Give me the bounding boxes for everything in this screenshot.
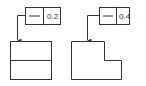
right-example: 0.4 <box>72 8 131 80</box>
feature-control-frame-right: 0.4 <box>100 8 131 25</box>
leader-line-right <box>88 16 100 41</box>
leader-line-left <box>18 16 26 41</box>
part-stepped-profile-right <box>72 42 122 80</box>
tolerance-value-right: 0.4 <box>119 12 131 21</box>
tolerance-value-left: 0.2 <box>47 12 59 21</box>
left-example: 0.2 <box>11 8 61 80</box>
feature-control-frame-left: 0.2 <box>26 8 61 25</box>
flatness-diagram: 0.2 0.4 <box>0 0 146 86</box>
part-rectangle-left <box>11 42 52 80</box>
